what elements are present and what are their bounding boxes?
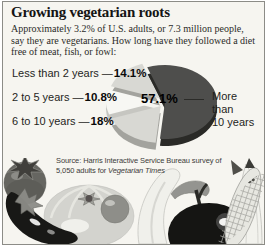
slice-callout-6-to-10-years: 6 to 10 years—18% bbox=[12, 115, 114, 127]
label-line: than bbox=[212, 103, 254, 116]
tomato-small-illustration bbox=[101, 195, 129, 223]
slice-label: 6 to 10 years bbox=[12, 115, 76, 127]
slice-label-more-than-10-years: More than 10 years bbox=[212, 90, 254, 129]
source-note: Source: Harris Interactive Service Burea… bbox=[56, 156, 236, 176]
slice-value: 18% bbox=[91, 115, 114, 127]
slice-label: Less than 2 years bbox=[12, 67, 99, 79]
label-line: More bbox=[212, 90, 254, 103]
callout-dash: — bbox=[102, 67, 113, 79]
callout-dash: — bbox=[79, 115, 90, 127]
slice-callout-less-than-2-years: Less than 2 years—14.1% bbox=[12, 67, 146, 79]
callout-dash: — bbox=[72, 91, 83, 103]
slice-value-more-than-10-years: 57.1% bbox=[141, 91, 178, 106]
source-line1: Source: Harris Interactive Service Burea… bbox=[56, 156, 221, 165]
infographic-frame: Growing vegetarian roots Approximately 3… bbox=[2, 1, 265, 245]
callout-line bbox=[184, 99, 204, 100]
label-line: 10 years bbox=[212, 116, 254, 129]
source-magazine: Vegetarian Times bbox=[108, 166, 165, 175]
slice-label: 2 to 5 years bbox=[12, 91, 69, 103]
page-title: Growing vegetarian roots bbox=[11, 3, 170, 21]
chart-subtitle: Approximately 3.2% of U.S. adults, or 7.… bbox=[11, 23, 259, 58]
slice-callout-2-to-5-years: 2 to 5 years—10.8% bbox=[12, 91, 117, 103]
slice-value: 14.1% bbox=[114, 67, 147, 79]
source-line2: 5,050 adults for bbox=[56, 166, 108, 175]
slice-value: 10.8% bbox=[84, 91, 117, 103]
